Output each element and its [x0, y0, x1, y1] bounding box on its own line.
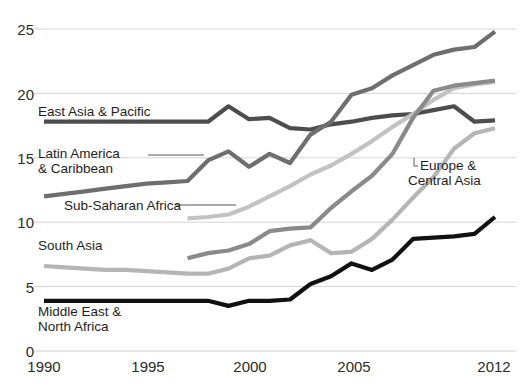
x-tick-2005: 2005: [324, 358, 384, 375]
series-label-middle-east-line2: North Africa: [38, 319, 109, 334]
y-tick-20: 20: [0, 86, 34, 103]
series-label-latin-america-line2: & Caribbean: [38, 161, 113, 176]
y-tick-25: 25: [0, 21, 34, 38]
leader-europe: [414, 158, 418, 166]
x-tick-1990: 1990: [14, 358, 74, 375]
series-label-east-asia-pacific: East Asia & Pacific: [38, 104, 151, 119]
x-tick-2000: 2000: [220, 358, 280, 375]
y-tick-10: 10: [0, 214, 34, 231]
x-tick-2012: 2012: [464, 358, 522, 375]
series-label-europe-line1: Europe &: [420, 158, 476, 173]
series-label-south-asia: South Asia: [38, 238, 103, 253]
y-tick-5: 5: [0, 279, 34, 296]
series-label-latin-america-line1: Latin America: [38, 146, 120, 161]
chart-container: 25 20 15 10 5 0 1990 1995 2000 2005 2012…: [0, 0, 522, 387]
y-tick-15: 15: [0, 150, 34, 167]
series-label-sub-saharan-africa: Sub-Saharan Africa: [64, 198, 181, 213]
series-label-middle-east-line1: Middle East &: [38, 304, 121, 319]
series-label-europe-line2: Central Asia: [408, 173, 481, 188]
x-tick-1995: 1995: [118, 358, 178, 375]
